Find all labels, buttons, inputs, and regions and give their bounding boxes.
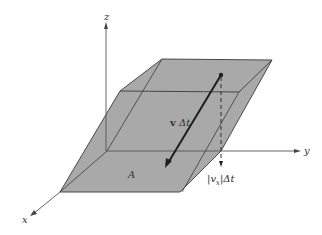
y-axis-arrowhead-icon [294, 149, 301, 153]
z-axis-arrowhead-icon [104, 22, 108, 29]
area-label: A [128, 170, 135, 180]
x-axis-label: x [22, 215, 28, 225]
velocity-label: v Δt [170, 118, 190, 128]
y-axis-label: y [304, 146, 310, 156]
velocity-tail-dot [219, 73, 223, 77]
z-axis-label: z [104, 12, 109, 22]
x-axis-arrowhead-icon [30, 210, 37, 216]
parallelepiped-body [60, 59, 272, 192]
delta-t: Δt [223, 173, 234, 184]
velocity-time: Δt [176, 117, 190, 128]
x-axis [33, 192, 60, 214]
height-arrowhead-icon [219, 161, 223, 167]
parallelepiped-diagram [0, 0, 322, 235]
height-label: |vx|Δt [207, 174, 235, 187]
